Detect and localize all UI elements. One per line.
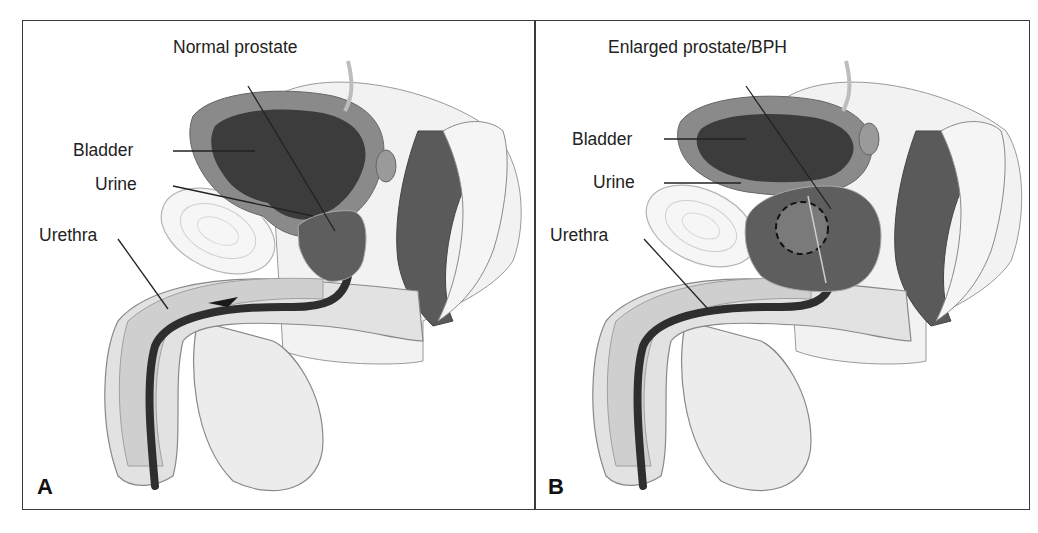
label-bladder: Bladder	[572, 131, 632, 149]
label-bladder: Bladder	[73, 142, 133, 160]
label-urethra: Urethra	[39, 227, 97, 245]
label-enlarged-prostate-bph: Enlarged prostate/BPH	[608, 39, 787, 57]
panel-letter-a: A	[37, 476, 53, 498]
panel-letter-b: B	[548, 476, 564, 498]
normal-prostate-illustration	[23, 21, 534, 509]
panel-b-enlarged-prostate: Enlarged prostate/BPH Bladder Urine Uret…	[536, 21, 1029, 509]
enlarged-prostate-illustration	[536, 21, 1029, 509]
label-urine: Urine	[95, 176, 137, 194]
panel-a-normal-prostate: Normal prostate Bladder Urine Urethra A	[23, 21, 534, 509]
label-normal-prostate: Normal prostate	[173, 39, 298, 57]
label-urethra: Urethra	[550, 227, 608, 245]
label-urine: Urine	[593, 174, 635, 192]
